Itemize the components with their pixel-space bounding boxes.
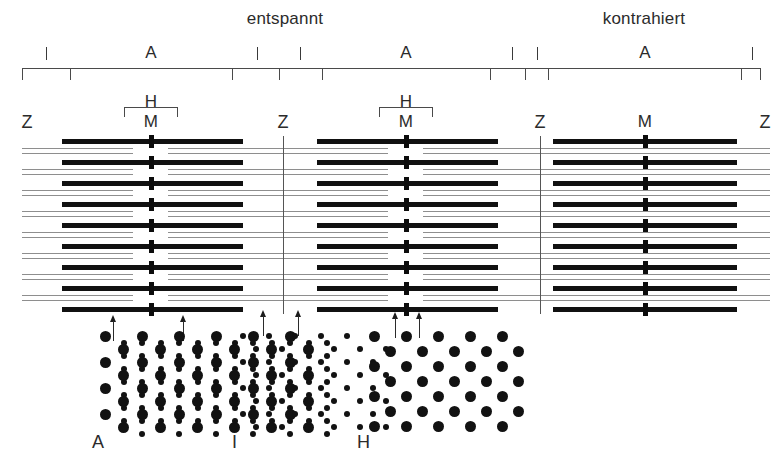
- actin-dot: [266, 411, 272, 417]
- actin-filament-right-0-6-1: [168, 279, 283, 280]
- myosin-dot: [385, 376, 396, 387]
- actin-filament-right-0-6-0: [168, 274, 283, 275]
- actin-filament-right-2-5-0: [600, 253, 770, 254]
- actin-dot: [292, 359, 298, 365]
- myosin-dot: [465, 391, 476, 402]
- actin-dot: [279, 424, 285, 430]
- actin-dot: [240, 385, 246, 391]
- m-line-segment-1-8: [404, 303, 409, 316]
- myosin-dot: [192, 422, 203, 433]
- actin-dot: [176, 431, 182, 437]
- actin-filament-right-0-2-0: [168, 190, 283, 191]
- z-label-0: Z: [21, 113, 32, 131]
- actin-filament-right-0-0-1: [168, 153, 283, 154]
- actin-filament-left-0-2-1: [22, 195, 133, 196]
- actin-filament-right-2-5-1: [600, 258, 770, 259]
- m-line-segment-2-1: [643, 156, 648, 169]
- m-line-segment-1-3: [404, 198, 409, 211]
- actin-filament-left-0-5-0: [22, 253, 133, 254]
- actin-dot: [357, 398, 363, 404]
- myosin-dot: [401, 391, 412, 402]
- band-scale-tick-8: [741, 68, 742, 80]
- actin-dot: [240, 411, 246, 417]
- actin-dot: [331, 424, 337, 430]
- actin-dot: [318, 359, 324, 365]
- band-mark-i-6: [537, 47, 538, 60]
- actin-dot: [240, 359, 246, 365]
- sarcomere-figure: entspannt kontrahiert AAA HMHMM ZZZZ AIH: [0, 0, 783, 469]
- actin-dot: [253, 424, 259, 430]
- actin-filament-right-2-7-1: [600, 300, 770, 301]
- band-scale-tick-5: [490, 68, 491, 80]
- myosin-dot: [100, 383, 111, 394]
- m-line-segment-0-5: [149, 240, 154, 253]
- actin-dot: [318, 385, 324, 391]
- actin-filament-left-0-4-1: [22, 237, 133, 238]
- actin-filament-right-2-4-1: [600, 237, 770, 238]
- actin-filament-right-2-2-0: [600, 190, 770, 191]
- actin-filament-left-1-2-1: [283, 195, 388, 196]
- band-scale-tick-2: [232, 68, 233, 80]
- actin-filament-right-0-3-0: [168, 211, 283, 212]
- actin-filament-left-1-4-0: [283, 232, 388, 233]
- actin-dot: [195, 353, 201, 359]
- actin-dot: [213, 366, 219, 372]
- myosin-dot: [465, 421, 476, 432]
- myosin-dot: [155, 422, 166, 433]
- actin-dot: [232, 405, 238, 411]
- myosin-dot: [433, 331, 444, 342]
- myosin-dot: [449, 376, 460, 387]
- actin-dot: [213, 392, 219, 398]
- actin-filament-right-0-5-1: [168, 258, 283, 259]
- actin-filament-left-0-0-1: [22, 153, 133, 154]
- actin-filament-right-2-6-0: [600, 274, 770, 275]
- myosin-dot: [449, 406, 460, 417]
- myosin-dot: [385, 346, 396, 357]
- actin-dot: [139, 392, 145, 398]
- band-mark-i-8: [752, 47, 753, 60]
- m-line-segment-2-8: [643, 303, 648, 316]
- actin-filament-right-2-1-1: [600, 174, 770, 175]
- myosin-dot: [513, 376, 524, 387]
- actin-filament-left-0-5-1: [22, 258, 133, 259]
- zone-label-h-2: H: [400, 93, 412, 110]
- myosin-dot: [513, 346, 524, 357]
- actin-filament-left-1-0-0: [283, 148, 388, 149]
- actin-filament-right-0-5-0: [168, 253, 283, 254]
- actin-dot: [357, 424, 363, 430]
- m-line-segment-2-6: [643, 261, 648, 274]
- cross-section-label-i: I: [232, 433, 237, 451]
- myosin-dot: [401, 421, 412, 432]
- myosin-dot: [433, 421, 444, 432]
- arrow-shaft: [419, 318, 420, 338]
- actin-filament-left-0-7-0: [22, 295, 133, 296]
- z-line-0: [283, 136, 284, 314]
- actin-filament-right-0-7-1: [168, 300, 283, 301]
- actin-filament-left-1-1-1: [283, 174, 388, 175]
- actin-dot: [331, 398, 337, 404]
- m-line-segment-2-3: [643, 198, 648, 211]
- actin-dot: [139, 340, 145, 346]
- m-line-segment-2-2: [643, 177, 648, 190]
- actin-filament-left-0-7-1: [22, 300, 133, 301]
- arrow-i-band-left: [260, 310, 267, 336]
- myosin-dot: [513, 406, 524, 417]
- band-mark-i-2: [257, 47, 258, 60]
- actin-filament-left-1-5-1: [283, 258, 388, 259]
- m-line-segment-1-4: [404, 219, 409, 232]
- actin-dot: [139, 431, 145, 437]
- myosin-dot: [465, 331, 476, 342]
- arrow-h-zone-left: [392, 312, 399, 338]
- myosin-dot: [369, 391, 380, 402]
- z-line-1: [540, 136, 541, 314]
- actin-dot: [253, 372, 259, 378]
- actin-filament-right-2-1-0: [600, 169, 770, 170]
- state-title-relaxed: entspannt: [247, 10, 323, 27]
- zone-label-m-1: M: [144, 113, 158, 130]
- m-line-segment-0-3: [149, 198, 154, 211]
- actin-filament-left-0-1-1: [22, 174, 133, 175]
- actin-dot: [121, 405, 127, 411]
- band-scale-tick-4: [322, 68, 323, 80]
- band-scale-tick-7: [548, 68, 549, 80]
- actin-filament-left-1-7-0: [283, 295, 388, 296]
